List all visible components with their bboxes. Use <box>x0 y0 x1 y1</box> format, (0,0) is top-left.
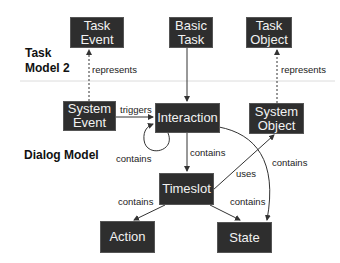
section-dialog-model: Dialog Model <box>24 148 99 163</box>
section-task-model: Task Model 2 <box>25 46 70 76</box>
label-contains-timeslot: contains <box>190 147 225 158</box>
label-uses: uses <box>236 168 256 179</box>
label-contains-self: contains <box>116 153 151 164</box>
label-represents-left: represents <box>92 64 137 75</box>
node-task-object: Task Object <box>246 17 292 48</box>
label-triggers: triggers <box>120 104 152 115</box>
node-timeslot: Timeslot <box>159 173 214 205</box>
label-represents-right: represents <box>281 64 326 75</box>
label-contains-state-curve: contains <box>272 157 307 168</box>
node-task-event: Task Event <box>70 17 124 48</box>
node-system-object: System Object <box>249 103 304 134</box>
label-contains-state: contains <box>230 196 265 207</box>
node-interaction: Interaction <box>155 103 220 133</box>
node-basic-task: Basic Task <box>169 17 213 48</box>
node-system-event: System Event <box>63 101 116 131</box>
node-state: State <box>217 222 272 253</box>
edge-contains-action <box>134 205 165 220</box>
edge-contains-state <box>210 205 240 220</box>
node-action: Action <box>100 221 155 253</box>
label-contains-action: contains <box>118 196 153 207</box>
